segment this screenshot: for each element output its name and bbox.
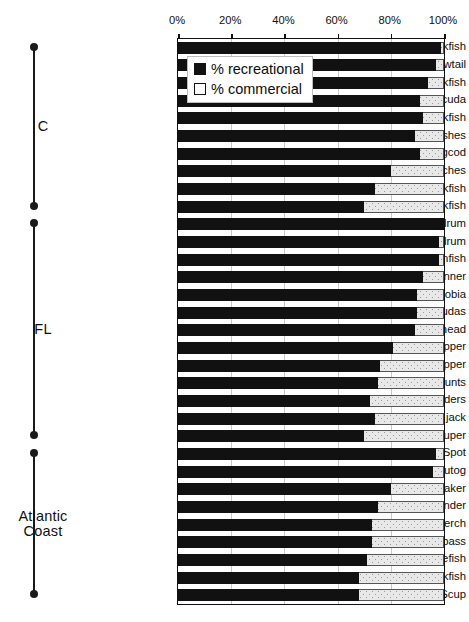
- stacked-bar-chart: CFLAtlanticCoast Olive rockfishYellowtai…: [0, 0, 469, 622]
- bar-row: [178, 289, 444, 301]
- x-axis-tick-label: 40%: [272, 14, 294, 26]
- bar-row: [178, 395, 444, 407]
- bar-segment-recreational: [178, 377, 378, 389]
- bar-segment-recreational: [178, 395, 370, 407]
- group-bracket-endpoint: [30, 43, 38, 51]
- bar-row: [178, 236, 444, 248]
- bar-row: [178, 466, 444, 478]
- bar-segment-recreational: [178, 289, 417, 301]
- x-axis-tick-label: 0%: [169, 14, 185, 26]
- bar-segment-recreational: [178, 360, 380, 372]
- bar-segment-recreational: [178, 307, 417, 319]
- open-square-icon: [194, 83, 206, 95]
- bar-segment-recreational: [178, 254, 439, 266]
- plot-area: [177, 38, 445, 605]
- bar-segment-recreational: [178, 589, 359, 601]
- bar-segment-recreational: [178, 448, 436, 460]
- bar-row: [178, 307, 444, 319]
- legend-label-commercial: % commercial: [211, 82, 302, 97]
- bar-segment-recreational: [178, 483, 391, 495]
- bar-segment-recreational: [178, 430, 364, 442]
- bar-segment-recreational: [178, 148, 420, 160]
- bar-row: [178, 342, 444, 354]
- x-axis-tick-label: 80%: [379, 14, 401, 26]
- x-axis-tick: [284, 34, 286, 39]
- group-label: FL: [0, 322, 86, 337]
- filled-square-icon: [194, 63, 206, 75]
- x-axis-tick-label: 20%: [219, 14, 241, 26]
- bar-row: [178, 554, 444, 566]
- group-label: AtlanticCoast: [0, 509, 86, 539]
- group-bracket-endpoint: [30, 449, 38, 457]
- bar-row: [178, 536, 444, 548]
- legend-item-commercial: % commercial: [194, 79, 304, 99]
- bar-row: [178, 589, 444, 601]
- bar-segment-recreational: [178, 413, 375, 425]
- legend-item-recreational: % recreational: [194, 59, 304, 79]
- bar-segment-recreational: [178, 201, 364, 213]
- bar-row: [178, 201, 444, 213]
- bar-row: [178, 271, 444, 283]
- bar-row: [178, 448, 444, 460]
- bar-row: [178, 572, 444, 584]
- group-bracket-endpoint: [30, 219, 38, 227]
- legend-label-recreational: % recreational: [211, 62, 304, 77]
- group-bracket-endpoint: [30, 590, 38, 598]
- chart-legend: % recreational % commercial: [187, 56, 313, 103]
- bar-row: [178, 430, 444, 442]
- bar-row: [178, 165, 444, 177]
- bar-row: [178, 130, 444, 142]
- bar-row: [178, 360, 444, 372]
- bar-segment-recreational: [178, 218, 444, 230]
- bar-row: [178, 148, 444, 160]
- bar-segment-recreational: [178, 130, 415, 142]
- bar-segment-recreational: [178, 112, 423, 124]
- bar-segment-recreational: [178, 536, 372, 548]
- bar-row: [178, 112, 444, 124]
- x-axis-tick: [231, 34, 233, 39]
- bar-row: [178, 324, 444, 336]
- group-label: C: [0, 119, 86, 134]
- group-bracket-endpoint: [30, 202, 38, 210]
- x-axis-tick-label: 100%: [429, 14, 458, 26]
- bar-row: [178, 501, 444, 513]
- bar-segment-recreational: [178, 236, 439, 248]
- bar-row: [178, 519, 444, 531]
- bar-segment-recreational: [178, 183, 375, 195]
- bar-row: [178, 42, 444, 54]
- bar-segment-recreational: [178, 165, 391, 177]
- x-axis-tick: [178, 34, 180, 39]
- bar-segment-recreational: [178, 324, 415, 336]
- bar-segment-recreational: [178, 42, 441, 54]
- bar-row: [178, 183, 444, 195]
- bar-segment-recreational: [178, 572, 359, 584]
- bar-row: [178, 413, 444, 425]
- group-bracket-endpoint: [30, 431, 38, 439]
- bar-segment-recreational: [178, 554, 367, 566]
- bar-segment-recreational: [178, 271, 423, 283]
- bar-segment-recreational: [178, 466, 433, 478]
- bar-row: [178, 254, 444, 266]
- x-axis-tick: [391, 34, 393, 39]
- bar-row: [178, 377, 444, 389]
- bar-row: [178, 483, 444, 495]
- bar-segment-recreational: [178, 501, 378, 513]
- x-axis-tick: [444, 34, 446, 39]
- x-axis-tick: [338, 34, 340, 39]
- x-axis-tick-label: 60%: [325, 14, 347, 26]
- bar-segment-recreational: [178, 342, 393, 354]
- bar-row: [178, 218, 444, 230]
- bar-segment-recreational: [178, 519, 372, 531]
